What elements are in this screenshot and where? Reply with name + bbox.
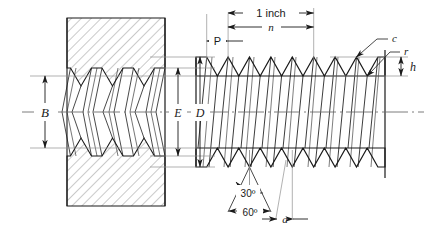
label-angle-30: 30º [241,188,256,199]
dimension-h: h [401,57,416,76]
label-major-diameter: D [195,106,205,120]
label-crest: c [392,32,397,44]
label-one-inch: 1 inch [256,7,285,19]
label-minor-diameter: B [41,105,49,120]
leader-crest: c [357,32,398,57]
dimension-a: a [262,160,308,225]
dimension-one-inch: 1 inch [228,5,314,21]
leader-crest-line [357,39,389,57]
label-root: r [404,45,409,57]
label-flat-width: a [282,213,288,225]
label-pitch-diameter: E [173,106,182,120]
thread-drawing-canvas: B E D 1 inch n P c r [0,0,432,235]
screw-thread-diagram: B E D 1 inch n P c r [0,0,432,235]
dimension-B: B [34,76,56,148]
dimension-a-ext-left [276,160,286,218]
dimension-E: E [169,68,187,156]
label-angle-60: 60º [243,207,258,218]
angle-annotations: 30º 60º [228,150,271,220]
label-threads-per-inch: n [268,21,274,33]
label-thread-height: h [410,60,416,74]
dimension-n: n [228,19,314,34]
dimension-P: P [207,32,243,49]
label-pitch: P [214,35,221,47]
